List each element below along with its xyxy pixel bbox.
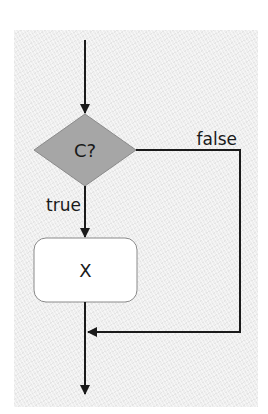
decision-label: C?: [74, 140, 96, 161]
decision-node: C?: [34, 114, 136, 186]
true-branch-label: true: [46, 195, 81, 215]
process-label: X: [79, 260, 91, 281]
false-branch-label: false: [197, 129, 237, 149]
flowchart: C? false true X: [0, 0, 268, 414]
process-node: X: [34, 238, 137, 302]
